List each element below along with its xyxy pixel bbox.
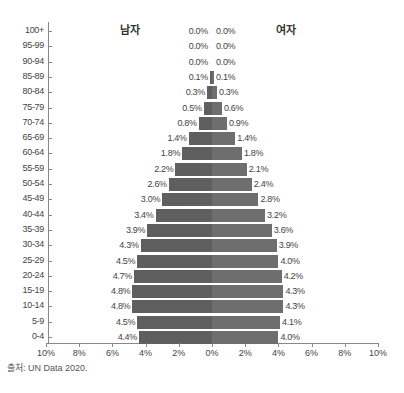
male-label: 남자 <box>120 21 140 37</box>
x-tick-label: 8% <box>330 348 360 358</box>
male-value-label: 4.5% <box>101 256 135 266</box>
male-bar <box>162 193 212 206</box>
age-group-label: 80-84 <box>0 86 44 96</box>
female-value-label: 0.6% <box>224 103 258 113</box>
age-group-label: 15-19 <box>0 285 44 295</box>
male-value-label: 4.7% <box>98 271 132 281</box>
x-tick <box>212 343 213 347</box>
male-value-label: 1.4% <box>153 133 187 143</box>
x-tick-label: 4% <box>131 348 161 358</box>
female-bar <box>212 209 265 222</box>
x-tick <box>278 343 279 347</box>
female-value-label: 0.0% <box>216 57 250 67</box>
age-group-label: 30-34 <box>0 239 44 249</box>
y-tick <box>48 108 52 109</box>
y-axis-line <box>48 22 49 344</box>
y-tick <box>48 230 52 231</box>
y-tick <box>48 184 52 185</box>
population-pyramid-chart: 남자 여자 출처: UN Data 2020. 100+0.0%0.0%95-9… <box>0 0 404 393</box>
female-value-label: 4.3% <box>285 301 319 311</box>
age-group-label: 70-74 <box>0 117 44 127</box>
female-value-label: 0.3% <box>219 87 253 97</box>
female-value-label: 3.6% <box>274 225 308 235</box>
x-tick-label: 10% <box>363 348 393 358</box>
age-group-label: 60-64 <box>0 147 44 157</box>
age-group-label: 65-69 <box>0 132 44 142</box>
male-bar <box>141 239 212 252</box>
y-tick <box>48 261 52 262</box>
x-tick <box>112 343 113 347</box>
age-group-label: 25-29 <box>0 255 44 265</box>
female-value-label: 0.1% <box>216 72 250 82</box>
female-bar <box>212 132 235 145</box>
x-tick <box>46 343 47 347</box>
x-tick-label: 2% <box>230 348 260 358</box>
male-bar <box>175 163 212 176</box>
male-value-label: 4.4% <box>103 332 137 342</box>
age-group-label: 55-59 <box>0 163 44 173</box>
male-value-label: 4.5% <box>101 317 135 327</box>
female-value-label: 3.2% <box>267 210 301 220</box>
male-bar <box>132 285 212 298</box>
male-bar <box>139 331 212 344</box>
y-tick <box>48 92 52 93</box>
y-tick <box>48 169 52 170</box>
x-tick <box>378 343 379 347</box>
female-value-label: 0.9% <box>229 118 263 128</box>
male-value-label: 3.9% <box>111 225 145 235</box>
y-tick <box>48 123 52 124</box>
female-bar <box>212 147 242 160</box>
female-bar <box>212 255 278 268</box>
y-tick <box>48 31 52 32</box>
female-bar <box>212 316 280 329</box>
male-value-label: 0.0% <box>174 41 208 51</box>
x-tick <box>312 343 313 347</box>
female-value-label: 1.8% <box>244 148 278 158</box>
x-tick-label: 6% <box>97 348 127 358</box>
male-bar <box>189 132 212 145</box>
x-tick-label: 4% <box>263 348 293 358</box>
female-bar <box>212 224 272 237</box>
age-group-label: 50-54 <box>0 178 44 188</box>
x-tick <box>146 343 147 347</box>
age-group-label: 40-44 <box>0 209 44 219</box>
male-bar <box>137 255 212 268</box>
y-tick <box>48 245 52 246</box>
y-tick <box>48 138 52 139</box>
female-value-label: 4.2% <box>284 271 318 281</box>
female-value-label: 2.8% <box>260 194 294 204</box>
y-tick <box>48 306 52 307</box>
y-tick <box>48 337 52 338</box>
y-tick <box>48 199 52 200</box>
y-tick <box>48 153 52 154</box>
x-tick-label: 8% <box>64 348 94 358</box>
x-tick-label: 10% <box>31 348 61 358</box>
y-tick <box>48 322 52 323</box>
female-value-label: 0.0% <box>216 41 250 51</box>
female-bar <box>212 285 283 298</box>
female-value-label: 0.0% <box>216 26 250 36</box>
y-tick <box>48 77 52 78</box>
male-value-label: 3.4% <box>120 210 154 220</box>
female-bar <box>212 163 247 176</box>
female-value-label: 1.4% <box>237 133 271 143</box>
female-value-label: 2.1% <box>249 164 283 174</box>
age-group-label: 100+ <box>0 25 44 35</box>
female-value-label: 4.0% <box>280 256 314 266</box>
male-bar <box>137 316 212 329</box>
male-bar <box>169 178 212 191</box>
age-group-label: 90-94 <box>0 56 44 66</box>
male-bar <box>132 300 212 313</box>
female-bar <box>212 270 282 283</box>
female-value-label: 4.1% <box>282 317 316 327</box>
age-group-label: 5-9 <box>0 316 44 326</box>
age-group-label: 45-49 <box>0 193 44 203</box>
female-value-label: 4.3% <box>285 286 319 296</box>
male-value-label: 4.8% <box>96 301 130 311</box>
male-bar <box>182 147 212 160</box>
x-tick-label: 2% <box>164 348 194 358</box>
age-group-label: 10-14 <box>0 300 44 310</box>
age-group-label: 0-4 <box>0 331 44 341</box>
male-value-label: 0.5% <box>168 103 202 113</box>
x-tick-label: 0% <box>197 348 227 358</box>
